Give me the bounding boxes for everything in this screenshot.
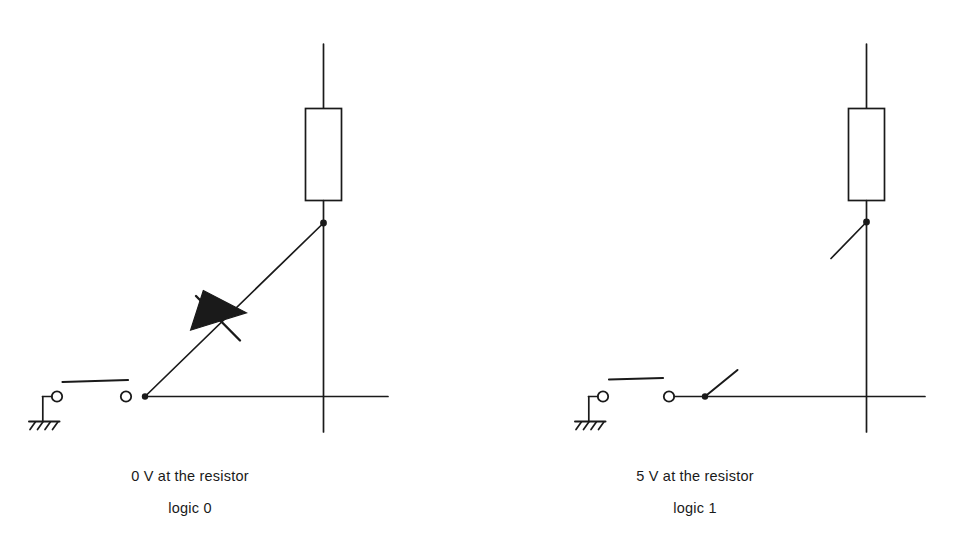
right-resistor-rectangle xyxy=(849,109,885,201)
left-caption-voltage: 0 V at the resistor xyxy=(80,468,300,484)
left-ground-hatch-3 xyxy=(45,422,51,430)
left-switch-blade xyxy=(63,380,129,382)
right-ground-hatch-3 xyxy=(591,422,597,430)
right-ground-hatch-1 xyxy=(576,422,582,430)
left-resistor-rectangle xyxy=(306,109,342,201)
left-switch-junction-dot xyxy=(142,393,148,399)
right-switch-blade xyxy=(609,378,663,380)
right-switch-left-terminal xyxy=(598,391,608,401)
right-open-branch-stub xyxy=(831,222,867,259)
right-caption-voltage: 5 V at the resistor xyxy=(570,468,820,484)
left-caption-logic-level: logic 0 xyxy=(80,500,300,516)
right-circuit-group xyxy=(575,44,925,432)
right-open-switch-blade xyxy=(705,370,738,397)
right-switch-right-terminal xyxy=(664,391,674,401)
left-ground-hatch-4 xyxy=(53,422,59,430)
left-ground-hatch-2 xyxy=(38,422,44,430)
left-circuit-group xyxy=(29,44,388,432)
right-ground-hatch-2 xyxy=(584,422,590,430)
circuit-schematic-canvas xyxy=(0,0,974,549)
right-caption-logic-level: logic 1 xyxy=(570,500,820,516)
right-ground-hatch-4 xyxy=(599,422,605,430)
left-switch-left-terminal xyxy=(52,391,62,401)
left-ground-hatch-1 xyxy=(30,422,36,430)
left-switch-right-terminal xyxy=(121,391,131,401)
circuit-figure: 0 V at the resistor logic 0 5 V at the r… xyxy=(0,0,974,549)
